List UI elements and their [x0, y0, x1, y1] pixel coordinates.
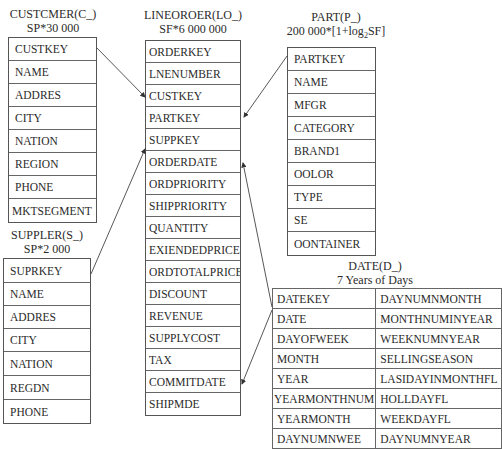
part-cardinality-prefix: 200 000*[1+log [287, 24, 364, 38]
date-field: WEEKNUMNYEAR [376, 329, 502, 349]
part-field: MFGR [288, 94, 375, 117]
supplier-field: PHONE [4, 400, 90, 423]
date-field: YEAR [273, 369, 376, 389]
date-title: DATE(D_) 7 Years of Days [300, 259, 450, 287]
customer-field: ADDRES [9, 84, 96, 107]
lineorder-field: PARTKEY [146, 107, 240, 129]
date-row: YEARMONTHNUMHOLLDAYFL [273, 389, 502, 409]
supplier-field: CITY [4, 329, 90, 352]
lineorder-field: CUSTKEY [146, 85, 240, 107]
date-name: DATE(D_) [300, 259, 450, 273]
part-cardinality: 200 000*[1+log2SF] [278, 24, 394, 43]
lineorder-field: ORDERKEY [146, 41, 240, 63]
date-field: YEARMONTH [273, 409, 376, 429]
customer-cardinality: SP*30 000 [8, 21, 98, 35]
lineorder-title: LINEOROER(LO_) SF*6 000 000 [140, 8, 246, 36]
supplier-table: SUPRKEY NAME ADDRES CITY NATION REGDN PH… [3, 258, 91, 424]
lineorder-field: QUANTITY [146, 217, 240, 239]
customer-field: CITY [9, 107, 96, 130]
supplier-field: ADDRES [4, 306, 90, 329]
customer-field: REGION [9, 153, 96, 176]
part-to-lineorder-arrow [244, 56, 287, 117]
date-row: DATEMONTHNUMINYEAR [273, 309, 502, 329]
customer-field: PHONE [9, 176, 96, 199]
date-field: DATE [273, 309, 376, 329]
lineorder-field: SUPPLYCOST [146, 327, 240, 349]
customer-field: NAME [9, 61, 96, 84]
part-field: BRAND1 [288, 140, 375, 163]
date-row: DAYOFWEEKWEEKNUMNYEAR [273, 329, 502, 349]
date-field: DAYNUMNYEAR [376, 429, 502, 449]
date-to-orderdate-arrow [243, 163, 272, 307]
customer-field: MKTSEGMENT [9, 199, 96, 222]
lineorder-field: LNENUMBER [146, 63, 240, 85]
part-title: PART(P_) 200 000*[1+log2SF] [278, 10, 394, 43]
date-cardinality: 7 Years of Days [300, 273, 450, 287]
customer-table: CUSTKEY NAME ADDRES CITY NATION REGION P… [8, 37, 97, 223]
part-table: PARTKEY NAME MFGR CATEGORY BRAND1 OOLOR … [287, 47, 376, 256]
customer-field: NATION [9, 130, 96, 153]
part-field: OONTAINER [288, 232, 375, 255]
date-row: YEARLASIDAYINMONTHFL [273, 369, 502, 389]
supplier-field: SUPRKEY [4, 259, 90, 283]
supplier-cardinality: SP*2 000 [6, 242, 88, 256]
supplier-title: SUPPLER(S_) SP*2 000 [6, 228, 88, 256]
lineorder-field: ORDTOTALPRICE [146, 261, 240, 283]
lineorder-field: ORDPRIORITY [146, 173, 240, 195]
date-field: LASIDAYINMONTHFL [376, 369, 502, 389]
part-cardinality-suffix: SF] [368, 24, 385, 38]
date-table: DATEKEYDAYNUMNMONTH DATEMONTHNUMINYEAR D… [272, 288, 502, 449]
lineorder-field: DISCOUNT [146, 283, 240, 305]
date-field: DATEKEY [273, 289, 376, 309]
lineorder-field: SUPPKEY [146, 129, 240, 151]
customer-name: CUSTCMER(C_) [8, 7, 98, 21]
lineorder-field: SHIPMDE [146, 393, 240, 415]
part-field: OOLOR [288, 163, 375, 186]
part-name: PART(P_) [278, 10, 394, 24]
lineorder-name: LINEOROER(LO_) [140, 8, 246, 22]
supplier-field: NATION [4, 352, 90, 376]
date-field: DAYOFWEEK [273, 329, 376, 349]
date-row: YEARMONTHWEEKDAYFL [273, 409, 502, 429]
date-field: MONTH [273, 349, 376, 369]
customer-field: CUSTKEY [9, 38, 96, 61]
lineorder-cardinality: SF*6 000 000 [140, 22, 246, 36]
date-field: DAYNUMNWEE [273, 429, 376, 449]
lineorder-field: COMMITDATE [146, 371, 240, 393]
date-field: MONTHNUMINYEAR [376, 309, 502, 329]
lineorder-field: EXIENDEDPRICE [146, 239, 240, 261]
supplier-field: NAME [4, 283, 90, 306]
part-field: PARTKEY [288, 48, 375, 71]
supplier-field: REGDN [4, 376, 90, 400]
part-field: TYPE [288, 186, 375, 209]
lineorder-field: TAX [146, 349, 240, 371]
date-field: DAYNUMNMONTH [376, 289, 502, 309]
lineorder-table: ORDERKEY LNENUMBER CUSTKEY PARTKEY SUPPK… [145, 40, 241, 416]
part-field: NAME [288, 71, 375, 94]
part-field: SE [288, 209, 375, 232]
lineorder-field: REVENUE [146, 305, 240, 327]
date-field: SELLINGSEASON [376, 349, 502, 369]
customer-title: CUSTCMER(C_) SP*30 000 [8, 7, 98, 35]
supplier-to-lineorder-arrow [91, 149, 145, 274]
lineorder-field: ORDERDATE [146, 151, 240, 173]
customer-to-lineorder-arrow [97, 48, 145, 97]
date-row: MONTHSELLINGSEASON [273, 349, 502, 369]
date-field: HOLLDAYFL [376, 389, 502, 409]
date-row: DAYNUMNWEEDAYNUMNYEAR [273, 429, 502, 449]
date-field: YEARMONTHNUM [273, 389, 376, 409]
supplier-name: SUPPLER(S_) [6, 228, 88, 242]
date-field: WEEKDAYFL [376, 409, 502, 429]
date-row: DATEKEYDAYNUMNMONTH [273, 289, 502, 309]
date-to-commitdate-arrow [242, 310, 272, 384]
part-field: CATEGORY [288, 117, 375, 140]
lineorder-field: SHIPPRIORITY [146, 195, 240, 217]
